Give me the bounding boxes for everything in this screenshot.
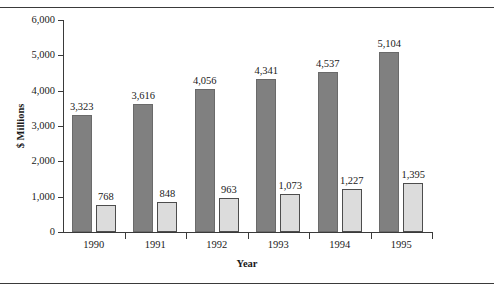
x-axis-category-label: 1990 (63, 240, 125, 251)
bar-value-label: 1,073 (278, 181, 302, 192)
y-axis-tick-label: 4,000 (31, 85, 55, 96)
x-axis-tick (309, 233, 310, 239)
bar-value-label: 1,227 (340, 176, 364, 187)
x-axis-tick (125, 233, 126, 239)
bar-series-1-1995 (379, 52, 399, 232)
bottom-rule (0, 283, 494, 284)
bar-value-label: 3,616 (131, 91, 155, 102)
y-axis-tick-label: 1,000 (31, 191, 55, 202)
top-rule (0, 7, 494, 8)
x-axis-category-label: 1991 (125, 240, 187, 251)
bar-series-1-1994 (318, 72, 338, 232)
bar-series-2-1995 (403, 183, 423, 232)
bar-series-2-1990 (96, 205, 116, 232)
x-axis-category-label: 1994 (309, 240, 371, 251)
plot-area: 3,3237683,6168484,0569634,3411,0734,5371… (63, 20, 432, 232)
bar-value-label: 3,323 (70, 102, 94, 113)
x-axis-category-label: 1993 (248, 240, 310, 251)
bar-series-2-1994 (342, 189, 362, 232)
y-axis-tick-label: 3,000 (31, 121, 55, 132)
y-axis-tick-label: 5,000 (31, 50, 55, 61)
bar-series-1-1991 (133, 104, 153, 232)
bar-value-label: 4,341 (254, 66, 278, 77)
bar-series-1-1992 (195, 89, 215, 232)
y-axis-tick-label: 2,000 (31, 156, 55, 167)
x-axis-title: Year (0, 258, 494, 269)
bar-value-label: 1,395 (401, 170, 425, 181)
y-axis-title: $ Millions (15, 104, 26, 149)
x-axis-tick (248, 233, 249, 239)
y-axis-tick-label: 6,000 (31, 15, 55, 26)
bar-value-label: 4,537 (316, 59, 340, 70)
x-axis-category-label: 1995 (371, 240, 433, 251)
x-axis-tick (432, 233, 433, 239)
bar-value-label: 4,056 (193, 76, 217, 87)
bar-value-label: 5,104 (377, 39, 401, 50)
bar-series-1-1993 (256, 79, 276, 232)
bar-series-1-1990 (72, 115, 92, 232)
bar-value-label: 963 (221, 185, 237, 196)
x-axis-line (63, 232, 433, 233)
bar-value-label: 848 (159, 189, 175, 200)
bar-series-2-1993 (280, 194, 300, 232)
x-axis-tick (186, 233, 187, 239)
bar-series-2-1992 (219, 198, 239, 232)
y-axis-tick-label: 0 (50, 227, 55, 238)
bar-value-label: 768 (98, 192, 114, 203)
x-axis-tick (371, 233, 372, 239)
chart-figure: $ Millions 01,0002,0003,0004,0005,0006,0… (0, 0, 494, 292)
bar-series-2-1991 (157, 202, 177, 232)
x-axis-category-label: 1992 (186, 240, 248, 251)
